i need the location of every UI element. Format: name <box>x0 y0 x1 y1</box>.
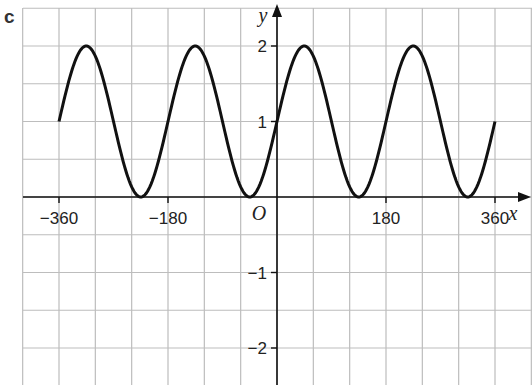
y-axis-label: y <box>257 4 268 27</box>
origin-label: O <box>252 202 266 224</box>
axes <box>23 4 531 385</box>
x-tick-label: 360 <box>481 209 509 228</box>
y-tick-label: 2 <box>258 37 267 56</box>
chart: −360−18018036021−1−2Oxy <box>0 0 532 385</box>
y-axis-arrow-icon <box>272 4 282 17</box>
y-tick-label: −2 <box>248 339 267 358</box>
x-axis-label: x <box>508 202 518 224</box>
x-tick-label: −180 <box>149 209 187 228</box>
y-tick-label: 1 <box>258 113 267 132</box>
tick-labels: −360−18018036021−1−2Oxy <box>40 4 518 358</box>
x-tick-label: −360 <box>40 209 78 228</box>
x-tick-label: 180 <box>372 209 400 228</box>
y-tick-label: −1 <box>248 264 267 283</box>
x-axis-arrow-icon <box>518 192 531 202</box>
